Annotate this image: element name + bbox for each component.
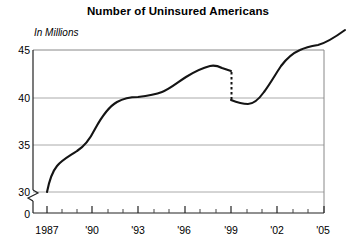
chart-container: Number of Uninsured Americans In Million… <box>0 0 356 245</box>
x-axis-major-ticks <box>47 206 324 213</box>
data-line-segment-1 <box>47 66 231 192</box>
plot-area <box>0 0 356 245</box>
data-line-segment-2 <box>231 30 345 104</box>
gridlines <box>33 50 324 192</box>
